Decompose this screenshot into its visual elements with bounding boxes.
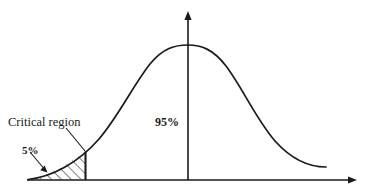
bell-curve	[28, 45, 326, 180]
critical-region-label: Critical region	[8, 116, 81, 129]
x-axis-arrowhead-icon	[348, 176, 357, 183]
tail-percent-label: 5%	[22, 145, 39, 156]
normal-distribution-figure: Critical region 5% 95%	[0, 0, 365, 193]
body-percent-label: 95%	[155, 116, 179, 128]
y-axis-arrowhead-icon	[184, 11, 191, 20]
distribution-diagram-canvas	[0, 0, 365, 193]
critical-region-leader-line	[66, 128, 85, 151]
tail-percent-arrowhead-icon	[40, 166, 47, 173]
